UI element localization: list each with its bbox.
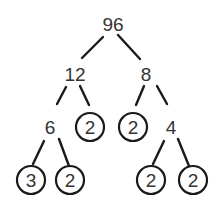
- node-12: 12: [64, 64, 85, 85]
- edge-12-2: [80, 86, 89, 105]
- edge-6-2: [59, 139, 69, 166]
- node-2-under-4-left: 2: [146, 170, 157, 191]
- node-2-under-8: 2: [128, 117, 139, 138]
- node-2-under-4-right: 2: [188, 170, 199, 191]
- edge-4-2-left: [153, 141, 164, 164]
- edge-12-6: [57, 87, 66, 104]
- edge-96-12: [82, 37, 103, 58]
- node-4: 4: [166, 117, 177, 138]
- edge-8-4: [157, 86, 167, 104]
- node-2-under-6: 2: [65, 170, 76, 191]
- node-6: 6: [45, 117, 56, 138]
- edge-4-2-right: [178, 139, 189, 166]
- edge-8-2: [136, 86, 144, 105]
- factor-tree-diagram: 96 12 8 6 2 2 4 3 2 2 2: [0, 0, 218, 206]
- node-3: 3: [26, 170, 37, 191]
- factor-tree-svg: 96 12 8 6 2 2 4 3 2 2 2: [0, 0, 218, 206]
- node-96: 96: [102, 14, 123, 35]
- node-8: 8: [141, 64, 152, 85]
- node-2-under-12: 2: [85, 117, 96, 138]
- edge-6-3: [33, 141, 44, 164]
- edge-96-8: [118, 35, 140, 59]
